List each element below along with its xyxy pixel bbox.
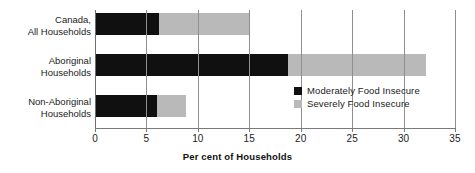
x-axis-tick: [352, 128, 353, 132]
gridline: [352, 10, 353, 128]
category-label-non-aboriginal-households: Non-Aboriginal Households: [0, 96, 91, 119]
x-axis-tick: [404, 128, 405, 132]
x-axis-tick: [146, 128, 147, 132]
x-axis-tick-label: 15: [244, 133, 255, 144]
x-axis-tick-label: 35: [449, 133, 460, 144]
category-label-aboriginal-households: Aboriginal Households: [0, 55, 91, 78]
bar-segment: [159, 13, 250, 35]
gridline: [95, 10, 96, 128]
x-axis-line: [95, 128, 456, 129]
x-axis-tick-label: 30: [398, 133, 409, 144]
bar-segment: [157, 95, 186, 117]
legend-swatch-icon: [294, 100, 302, 108]
bar-segment: [288, 54, 426, 76]
gridline: [404, 10, 405, 128]
x-axis-tick: [198, 128, 199, 132]
x-axis-tick-label: 5: [144, 133, 150, 144]
gridline: [455, 10, 456, 128]
legend: Moderately Food Insecure Severely Food I…: [294, 84, 420, 110]
bar-segment: [95, 13, 159, 35]
plot-area: [95, 10, 455, 128]
x-axis-tick: [95, 128, 96, 132]
legend-item-severely-food-insecure: Severely Food Insecure: [294, 97, 420, 110]
legend-item-moderately-food-insecure: Moderately Food Insecure: [294, 84, 420, 97]
x-axis-title: Per cent of Households: [0, 151, 475, 162]
x-axis-tick-label: 20: [295, 133, 306, 144]
gridline: [301, 10, 302, 128]
gridline: [198, 10, 199, 128]
x-axis-tick: [301, 128, 302, 132]
bar-chart: Canada, All Households Aboriginal Househ…: [0, 0, 475, 173]
gridline: [249, 10, 250, 128]
bar-segment: [95, 54, 288, 76]
legend-swatch-icon: [294, 87, 302, 95]
legend-label: Moderately Food Insecure: [307, 85, 420, 96]
category-label-canada-all-households: Canada, All Households: [0, 14, 91, 37]
legend-label: Severely Food Insecure: [307, 98, 410, 109]
x-axis-tick-label: 10: [192, 133, 203, 144]
x-axis-tick: [249, 128, 250, 132]
bar-segment: [95, 95, 157, 117]
x-axis-tick-label: 0: [92, 133, 98, 144]
gridline: [146, 10, 147, 128]
x-axis-tick-label: 25: [346, 133, 357, 144]
x-axis-tick: [455, 128, 456, 132]
